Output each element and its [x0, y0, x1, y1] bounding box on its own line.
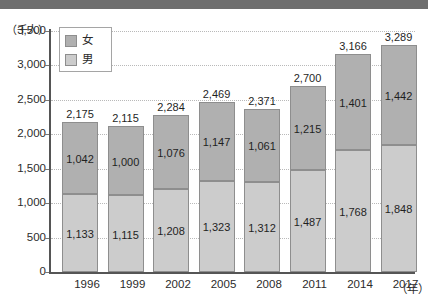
bar-group[interactable]: 1,1151,0002,115	[108, 31, 144, 272]
x-axis-tick-label: 2014	[335, 278, 385, 290]
x-axis-tick-label: 2017	[381, 278, 428, 290]
bar-value-label-female: 1,042	[62, 153, 98, 165]
bar-group[interactable]: 1,8481,4423,289	[381, 31, 417, 272]
bar-group[interactable]: 1,4871,2152,700	[290, 31, 326, 272]
x-axis-tick-label: 1999	[108, 278, 158, 290]
bar-total-label: 2,284	[147, 101, 195, 113]
chart-figure: （千人） （年） 3,5003,0002,5002,0001,5001,0005…	[0, 9, 428, 301]
bar-value-label-male: 1,487	[290, 216, 326, 228]
y-axis-tick-label: 3,500	[2, 24, 46, 36]
x-axis-tick-label: 2008	[244, 278, 294, 290]
bar-value-label-female: 1,401	[335, 97, 371, 109]
bar-value-label-male: 1,208	[153, 225, 189, 237]
bar-total-label: 2,175	[56, 108, 104, 120]
bar-value-label-male: 1,768	[335, 206, 371, 218]
legend-swatch-female	[65, 35, 77, 47]
x-axis-tick-label: 2011	[290, 278, 340, 290]
x-axis-tick-label: 1996	[62, 278, 112, 290]
x-axis-tick-label: 2002	[153, 278, 203, 290]
bar-total-label: 2,700	[284, 72, 332, 84]
bar-total-label: 3,166	[329, 40, 377, 52]
bar-group[interactable]: 1,3121,0612,371	[244, 31, 280, 272]
bar-value-label-male: 1,133	[62, 228, 98, 240]
x-axis-tick-label: 2005	[199, 278, 249, 290]
bar-value-label-male: 1,312	[244, 222, 280, 234]
chart-legend: 女 男	[59, 27, 112, 72]
bar-value-label-female: 1,215	[290, 123, 326, 135]
bar-group[interactable]: 1,3231,1472,469	[199, 31, 235, 272]
legend-label-female: 女	[82, 35, 93, 47]
legend-label-male: 男	[82, 54, 93, 66]
y-axis-tick-label: 3,000	[2, 58, 46, 70]
y-axis-tick-label: 2,000	[2, 127, 46, 139]
y-axis-tick-labels: 3,5003,0002,5002,0001,5001,0005000	[0, 9, 46, 301]
y-axis-tick-label: 2,500	[2, 93, 46, 105]
bar-total-label: 3,289	[375, 31, 423, 43]
bar-value-label-female: 1,076	[153, 147, 189, 159]
x-axis-line	[49, 272, 415, 274]
y-axis-tick-label: 1,500	[2, 162, 46, 174]
bar-value-label-male: 1,848	[381, 203, 417, 215]
bar-value-label-female: 1,061	[244, 140, 280, 152]
legend-swatch-male	[65, 54, 77, 66]
legend-item-male: 男	[65, 50, 111, 69]
bar-total-label: 2,371	[238, 95, 286, 107]
bar-total-label: 2,115	[102, 112, 150, 124]
bar-group[interactable]: 1,7681,4013,166	[335, 31, 371, 272]
y-axis-tick-label: 500	[2, 231, 46, 243]
x-axis-tick-labels: 19961999200220052008201120142017	[51, 278, 415, 298]
top-banner	[0, 0, 428, 9]
y-axis-tick-label: 0	[2, 265, 46, 277]
bar-value-label-female: 1,442	[381, 90, 417, 102]
bar-value-label-female: 1,147	[199, 136, 235, 148]
bar-total-label: 2,469	[193, 88, 241, 100]
bar-value-label-male: 1,323	[199, 221, 235, 233]
legend-item-female: 女	[65, 31, 111, 50]
bar-value-label-male: 1,115	[108, 229, 144, 241]
bar-value-label-female: 1,000	[108, 156, 144, 168]
bar-group[interactable]: 1,2081,0762,284	[153, 31, 189, 272]
y-axis-tick-label: 1,000	[2, 196, 46, 208]
